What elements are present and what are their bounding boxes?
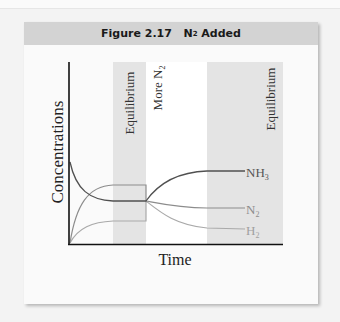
chart: Concentrations Time Equilibrium More N2 … (0, 0, 340, 322)
region-label-equilibrium-1: Equilibrium (122, 72, 137, 135)
y-axis-label: Concentrations (48, 101, 67, 204)
x-axis-label: Time (158, 251, 191, 268)
region-label-more-n2: More N2 (150, 66, 167, 111)
region-label-equilibrium-2: Equilibrium (263, 68, 278, 131)
